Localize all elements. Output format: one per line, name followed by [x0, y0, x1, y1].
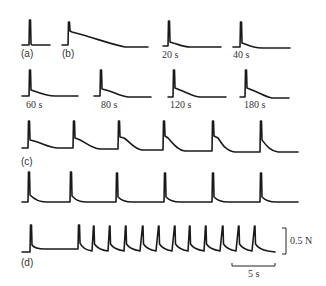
figure: (a) (b) 20 s 40 s 60 s 80 s 120 s 180 s … [0, 0, 326, 286]
time-label-80s: 80 s [101, 99, 117, 110]
time-label-40s: 40 s [233, 49, 249, 60]
trace-c-row1 [22, 121, 298, 152]
trace-b [62, 22, 148, 47]
time-label-20s: 20 s [162, 49, 178, 60]
time-scale-bar [232, 263, 275, 266]
panel-label-a: (a) [21, 48, 33, 59]
trace-60s [22, 70, 78, 96]
trace-d [22, 225, 275, 252]
panel-label-b: (b) [62, 48, 74, 59]
time-scale-label: 5 s [248, 268, 259, 279]
trace-120s [168, 70, 226, 97]
traces-svg [0, 0, 326, 286]
trace-a [22, 20, 50, 45]
trace-180s [240, 70, 289, 98]
panel-label-d: (d) [21, 257, 33, 268]
panel-label-c: (c) [21, 156, 33, 167]
trace-40s [233, 22, 290, 48]
time-label-120s: 120 s [170, 99, 191, 110]
force-scale-label: 0.5 N [290, 235, 312, 246]
trace-20s [163, 21, 221, 47]
time-label-60s: 60 s [26, 99, 42, 110]
force-scale-bar [282, 228, 286, 254]
trace-c-row2 [22, 172, 298, 202]
trace-80s [94, 70, 151, 97]
time-label-180s: 180 s [244, 99, 265, 110]
